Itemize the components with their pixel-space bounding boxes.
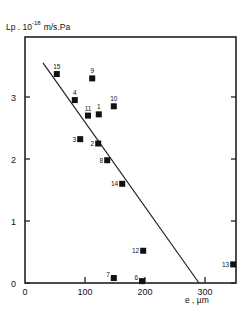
data-point-marker (104, 157, 110, 163)
data-point-marker (54, 71, 60, 77)
regression-line (43, 63, 199, 283)
data-point-label: 14 (111, 180, 119, 187)
y-tick-label: 0 (11, 279, 16, 289)
data-point-marker (89, 75, 95, 81)
data-point-label: 3 (73, 136, 77, 143)
data-point-label: 11 (85, 105, 92, 112)
data-point-marker (111, 275, 117, 281)
data-point-marker (95, 141, 101, 147)
data-point-label: 10 (110, 95, 118, 102)
data-point-label: 4 (73, 89, 77, 96)
data-point-marker (85, 113, 91, 119)
data-point-marker (111, 103, 117, 109)
y-tick-label: 3 (11, 93, 16, 103)
data-point-label: 12 (132, 247, 140, 254)
data-point-label: 15 (53, 63, 61, 70)
scatter-chart: 01230100200300Lp . 10-18m/s.Pae , µm1234… (0, 0, 247, 319)
data-point-label: 8 (100, 157, 104, 164)
data-point-marker (96, 111, 102, 117)
x-axis-label: e , µm (185, 295, 209, 305)
data-point-label: 6 (134, 274, 138, 281)
data-point-label: 1 (97, 103, 101, 110)
data-point-label: 7 (106, 271, 110, 278)
data-point-marker (139, 278, 145, 284)
x-tick-label: 0 (22, 287, 27, 297)
data-point-label: 9 (90, 67, 94, 74)
data-point-marker (77, 136, 83, 142)
y-tick-label: 2 (11, 155, 16, 165)
x-tick-label: 100 (77, 287, 92, 297)
data-point-marker (230, 261, 236, 267)
y-axis-label: Lp . 10-18m/s.Pa (6, 20, 70, 32)
y-tick-label: 1 (11, 217, 16, 227)
x-tick-label: 200 (137, 287, 152, 297)
data-point-label: 2 (91, 140, 95, 147)
data-point-marker (119, 181, 125, 187)
data-point-marker (72, 97, 78, 103)
data-point-label: 13 (222, 261, 230, 268)
data-point-marker (140, 248, 146, 254)
